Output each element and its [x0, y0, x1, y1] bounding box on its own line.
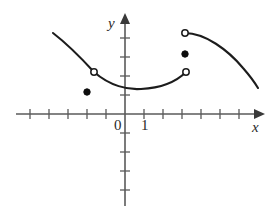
axes-group [16, 13, 265, 206]
closed-circle-right [182, 51, 188, 57]
x-axis-arrow-icon [254, 109, 265, 119]
y-axis-arrow-icon [120, 13, 130, 24]
curves-group [53, 33, 258, 89]
curve-right-branch [185, 33, 258, 88]
y-axis-label: y [108, 16, 115, 31]
graph-canvas [0, 0, 271, 210]
closed-circle-left [84, 89, 90, 95]
open-circle-left-mid [91, 69, 97, 75]
unit-tick-label: 1 [141, 118, 149, 133]
graph-figure: y x 0 1 [0, 0, 271, 210]
endpoint-markers [84, 30, 189, 95]
open-circle-right-high [182, 30, 188, 36]
open-circle-right-low [183, 69, 189, 75]
origin-label: 0 [114, 118, 122, 133]
curve-middle-branch [94, 72, 186, 89]
curve-left-branch [53, 33, 94, 72]
x-axis-label: x [252, 120, 259, 135]
